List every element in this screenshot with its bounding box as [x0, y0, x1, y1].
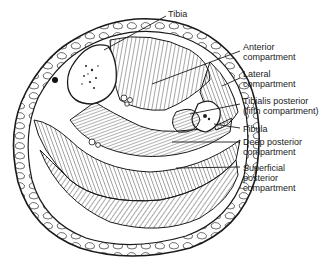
saphenous-vein [52, 77, 58, 83]
label-fibula: Fibula [243, 124, 268, 134]
label-superficial-posterior-compartment: Superficial posterior compartment [243, 163, 296, 193]
label-lateral-compartment: Lateral compartment [243, 69, 296, 89]
label-tibialis-posterior: Tibialis posterior (fifth compartment) [243, 96, 319, 116]
leg-cross-section-diagram [0, 0, 325, 268]
label-tibia: Tibia [168, 9, 187, 19]
label-deep-posterior-compartment: Deep posterior compartment [243, 137, 302, 157]
label-anterior-compartment: Anterior compartment [243, 42, 296, 62]
